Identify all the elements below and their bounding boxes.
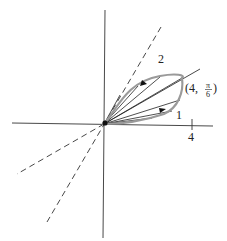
point-label-numerator: π: [206, 81, 210, 90]
region-1-label: 1: [176, 108, 182, 122]
point-label-denominator: 6: [206, 90, 210, 99]
tick-4-label: 4: [188, 130, 194, 144]
point-label-prefix: (4,: [185, 81, 198, 95]
line-pi-6-dashed: [17, 124, 104, 174]
region-2-label: 2: [158, 52, 164, 66]
polar-diagram: 2 1 4 (4, π 6 ): [0, 0, 227, 241]
origin-point: [102, 120, 107, 125]
point-label-suffix: ): [213, 81, 217, 95]
